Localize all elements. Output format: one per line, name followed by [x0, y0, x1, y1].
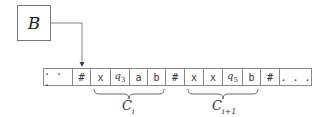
- tape-cell: a: [130, 68, 148, 86]
- brace-label-ci1: Ci+1: [212, 98, 236, 116]
- connector-overlay: [0, 0, 330, 117]
- tape-cell: #: [261, 68, 280, 86]
- tape-cell: x: [204, 68, 223, 86]
- tape-cell: x: [185, 68, 204, 86]
- tape-cell: #: [73, 68, 91, 86]
- arrow-head-icon: [80, 62, 85, 67]
- tape-cell: #: [166, 68, 185, 86]
- tape-cell: . . .: [280, 68, 312, 86]
- tape-cell: b: [148, 68, 166, 86]
- tape-cell: . . .: [43, 68, 73, 86]
- tape-cell: q5: [223, 68, 243, 86]
- state-symbol: q5: [227, 70, 238, 84]
- tape-cell: b: [243, 68, 261, 86]
- tape-cell: x: [91, 68, 111, 86]
- tape: . . .#xq3ab#xxq5b#. . .: [43, 68, 312, 86]
- brace-label-ci: Ci: [122, 98, 135, 116]
- head-arrow: [51, 23, 82, 65]
- tape-cell: q3: [111, 68, 130, 86]
- state-symbol: q3: [115, 70, 126, 84]
